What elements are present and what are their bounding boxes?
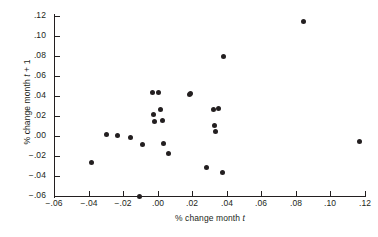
data-point [221, 54, 226, 59]
data-point [89, 160, 94, 165]
y-axis-title: % change month t + 1 [22, 22, 32, 182]
x-tick-label: −.06 [34, 199, 74, 208]
x-axis-title: % change month t [54, 213, 366, 223]
data-point [188, 91, 193, 96]
y-axis-variable: t [22, 74, 32, 76]
data-point [115, 133, 120, 138]
data-point [211, 107, 216, 112]
data-point [151, 112, 156, 117]
y-tick-label: .12 [12, 11, 46, 20]
data-point [161, 141, 166, 146]
data-point [137, 194, 142, 199]
data-point [158, 107, 163, 112]
x-tick-label: .12 [345, 199, 378, 208]
data-point [220, 170, 225, 175]
y-tick-mark [55, 196, 60, 197]
x-tick-label: −.02 [103, 199, 143, 208]
data-point [204, 165, 209, 170]
scatter-plot-figure: −.06−.04−.02.00.02.04.06.08.10.12 −.06−.… [0, 0, 378, 237]
data-point [216, 106, 221, 111]
data-point [140, 142, 145, 147]
x-axis-variable: t [243, 213, 245, 223]
x-tick-label: .06 [241, 199, 281, 208]
data-point [156, 90, 161, 95]
x-tick-mark [365, 191, 366, 196]
data-point [212, 123, 217, 128]
data-point [152, 119, 157, 124]
data-point [160, 118, 165, 123]
x-tick-label: .02 [172, 199, 212, 208]
data-point [213, 129, 218, 134]
x-axis-line [54, 196, 366, 197]
plot-data-area [54, 16, 365, 196]
x-tick-label: .10 [310, 199, 350, 208]
data-point [150, 90, 155, 95]
